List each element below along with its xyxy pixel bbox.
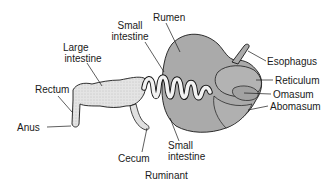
- label-small-intestine-bottom: Small intestine: [168, 140, 205, 162]
- label-anus: Anus: [17, 122, 40, 133]
- label-small-intestine-top-line1: Small: [110, 20, 150, 31]
- label-large-intestine-line2: intestine: [63, 53, 103, 64]
- label-esophagus: Esophagus: [267, 56, 317, 67]
- label-cecum: Cecum: [118, 153, 150, 164]
- label-small-intestine-bottom-line1: Small: [168, 140, 205, 151]
- label-reticulum: Reticulum: [275, 75, 319, 86]
- label-rumen: Rumen: [153, 12, 185, 23]
- label-abomasum: Abomasum: [270, 101, 321, 112]
- label-small-intestine-top: Small intestine: [110, 20, 150, 42]
- cecum-shape: [130, 104, 149, 130]
- label-small-intestine-bottom-line2: intestine: [168, 151, 205, 162]
- diagram-caption: Ruminant: [145, 170, 188, 181]
- label-large-intestine-line1: Large: [63, 42, 103, 53]
- label-small-intestine-top-line2: intestine: [110, 31, 150, 42]
- label-rectum: Rectum: [35, 84, 69, 95]
- label-omasum: Omasum: [273, 89, 314, 100]
- label-large-intestine: Large intestine: [63, 42, 103, 64]
